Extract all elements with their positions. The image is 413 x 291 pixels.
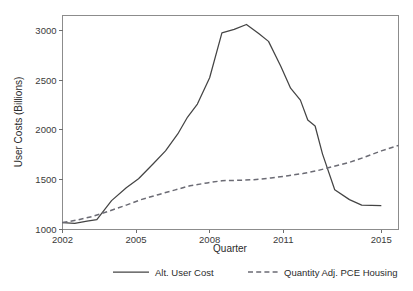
x-tick-label: 2002: [52, 234, 73, 245]
y-tick-label: 1500: [35, 174, 56, 185]
y-axis-title: User Costs (Billions): [13, 77, 24, 168]
x-axis-title: Quarter: [213, 243, 248, 254]
y-tick-label: 2000: [35, 124, 56, 135]
y-axis: 10001500200025003000: [35, 25, 62, 235]
series-line-quantity-adj-pce-housing: [63, 145, 399, 222]
x-tick-label: 2011: [273, 234, 293, 245]
series-line-alt-user-cost: [63, 24, 382, 223]
chart-legend: Alt. User CostQuantity Adj. PCE Housing: [113, 267, 398, 278]
plot-frame: [63, 16, 399, 230]
legend-label-quantity-adj-pce-housing: Quantity Adj. PCE Housing: [284, 267, 398, 278]
y-tick-label: 2500: [35, 75, 56, 86]
legend-label-alt-user-cost: Alt. User Cost: [155, 267, 214, 278]
y-tick-label: 3000: [35, 25, 56, 36]
x-tick-label: 2015: [371, 234, 392, 245]
line-chart-figure: 10001500200025003000 2002200520082011201…: [0, 0, 413, 291]
chart-container: 10001500200025003000 2002200520082011201…: [0, 0, 413, 291]
x-tick-label: 2005: [126, 234, 147, 245]
